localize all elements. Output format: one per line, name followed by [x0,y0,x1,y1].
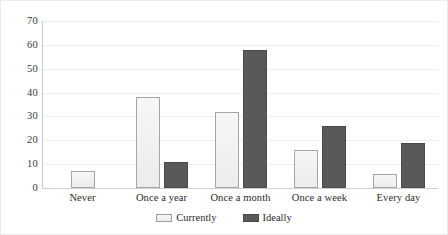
gridline-0 [42,188,438,189]
bar-currently-every-day[interactable] [373,174,397,188]
bar-group-every-day [359,21,438,188]
legend-label: Currently [176,212,216,224]
chart-legend: CurrentlyIdeally [1,212,447,224]
bar-ideally-once-a-week[interactable] [322,126,346,188]
x-tick-label-once-a-week: Once a week [280,191,359,204]
legend-item-ideally[interactable]: Ideally [243,212,292,224]
bar-ideally-every-day[interactable] [401,143,425,188]
bar-currently-never[interactable] [71,171,95,188]
bar-groups [43,21,438,188]
y-tick-label-60: 60 [4,40,38,50]
bar-currently-once-a-month[interactable] [215,112,239,188]
light-swatch-icon [156,214,172,222]
x-tick-label-never: Never [43,191,122,204]
y-tick-label-40: 40 [4,88,38,98]
bar-ideally-once-a-year[interactable] [164,162,188,188]
bar-group-never [43,21,122,188]
x-tick-label-every-day: Every day [359,191,438,204]
legend-item-currently[interactable]: Currently [156,212,216,224]
x-axis-labels: NeverOnce a yearOnce a monthOnce a weekE… [43,191,438,204]
bar-group-once-a-week [280,21,359,188]
legend-label: Ideally [263,212,292,224]
y-tick-label-30: 30 [4,111,38,121]
x-tick-label-once-a-month: Once a month [201,191,280,204]
bar-currently-once-a-week[interactable] [294,150,318,188]
y-tick-label-70: 70 [4,16,38,26]
bar-group-once-a-month [201,21,280,188]
bar-group-once-a-year [122,21,201,188]
dark-swatch-icon [243,214,259,222]
bar-chart-figure: 706050403020100 NeverOnce a yearOnce a m… [0,0,448,235]
x-tick-label-once-a-year: Once a year [122,191,201,204]
y-tick-label-50: 50 [4,64,38,74]
y-tick-label-20: 20 [4,135,38,145]
bar-currently-once-a-year[interactable] [136,97,160,188]
bar-ideally-once-a-month[interactable] [243,50,267,188]
y-axis-labels: 706050403020100 [1,1,38,235]
y-tick-label-10: 10 [4,159,38,169]
y-tick-label-0: 0 [4,183,38,193]
